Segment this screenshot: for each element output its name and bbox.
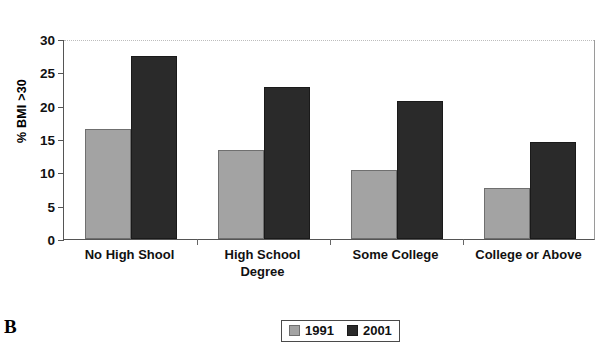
y-axis-tick	[58, 73, 64, 74]
x-axis-category-label-line: Some College	[329, 246, 462, 263]
y-axis-tick	[58, 240, 64, 241]
y-axis-tick-label: 5	[47, 199, 55, 214]
panel-letter: B	[4, 316, 17, 338]
y-axis-tick-label: 25	[40, 66, 55, 81]
bar-1991-2	[218, 150, 264, 239]
legend-label-1991: 1991	[305, 323, 334, 338]
y-axis-title: % BMI >30	[15, 51, 29, 171]
x-axis-category-label: High SchoolDegree	[196, 246, 329, 280]
legend-swatch-2001	[347, 325, 358, 336]
bar-chart-figure: % BMI >30 051015202530 No High ShoolHigh…	[0, 0, 612, 358]
y-axis-tick	[58, 40, 64, 41]
y-axis-tick	[58, 207, 64, 208]
bar-2001-4	[530, 142, 576, 239]
x-axis-separator	[330, 239, 331, 245]
x-axis-category-label: Some College	[329, 246, 462, 263]
bar-1991-3	[351, 170, 397, 239]
x-axis-category-label-line: No High Shool	[63, 246, 196, 263]
bar-2001-2	[264, 87, 310, 239]
chart-legend: 1991 2001	[281, 320, 400, 342]
y-axis-tick	[58, 173, 64, 174]
x-axis-separator	[197, 239, 198, 245]
legend-entry-2001: 2001	[347, 323, 392, 338]
y-axis-tick-label: 0	[47, 233, 55, 248]
y-axis-tick-label: 15	[40, 133, 55, 148]
x-axis-separator	[463, 239, 464, 245]
bar-2001-3	[397, 101, 443, 239]
bar-2001-1	[131, 56, 177, 239]
plot-inner	[64, 40, 594, 239]
legend-entry-1991: 1991	[289, 323, 334, 338]
plot-area: 051015202530	[63, 40, 595, 240]
y-axis-tick-label: 30	[40, 33, 55, 48]
y-axis-tick	[58, 140, 64, 141]
x-axis-category-label-line: College or Above	[462, 246, 595, 263]
legend-label-2001: 2001	[363, 323, 392, 338]
y-axis-tick-label: 10	[40, 166, 55, 181]
bar-1991-4	[484, 188, 530, 239]
legend-swatch-1991	[289, 325, 300, 336]
y-axis-tick	[58, 107, 64, 108]
x-axis-category-label-line: Degree	[196, 263, 329, 280]
bar-1991-1	[85, 129, 131, 239]
x-axis-category-label: No High Shool	[63, 246, 196, 263]
x-axis-category-label-line: High School	[196, 246, 329, 263]
y-axis-tick-label: 20	[40, 99, 55, 114]
x-axis-category-label: College or Above	[462, 246, 595, 263]
